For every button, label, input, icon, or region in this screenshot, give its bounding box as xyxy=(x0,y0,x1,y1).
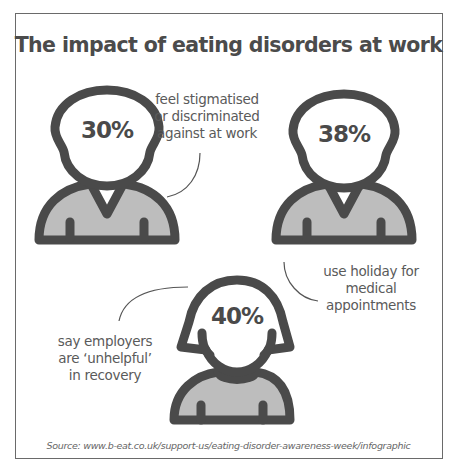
callout-line-1 xyxy=(167,153,200,197)
female-figure-icon: 40% xyxy=(174,280,290,420)
caption-line: appointments xyxy=(312,297,430,314)
figures-illustration: 30% 38% 40% xyxy=(0,0,457,473)
caption-line: medical xyxy=(312,280,430,297)
caption-holiday: use holiday for medical appointments xyxy=(312,263,430,314)
caption-line: use holiday for xyxy=(312,263,430,280)
svg-text:38%: 38% xyxy=(318,121,371,147)
source-citation: Source: www.b-eat.co.uk/support-us/eatin… xyxy=(0,440,457,451)
caption-line: say employers xyxy=(46,333,164,350)
male-figure-icon-2: 38% xyxy=(276,94,412,240)
svg-text:30%: 30% xyxy=(81,117,134,143)
caption-line: or discriminated xyxy=(147,108,267,125)
caption-line: in recovery xyxy=(46,367,164,384)
caption-unhelpful: say employers are ‘unhelpful’ in recover… xyxy=(46,333,164,384)
caption-line: against at work xyxy=(147,125,267,142)
svg-text:40%: 40% xyxy=(211,303,264,329)
callout-line-3 xyxy=(119,287,188,321)
caption-stigmatised: feel stigmatised or discriminated agains… xyxy=(147,91,267,142)
caption-line: are ‘unhelpful’ xyxy=(46,350,164,367)
caption-line: feel stigmatised xyxy=(147,91,267,108)
